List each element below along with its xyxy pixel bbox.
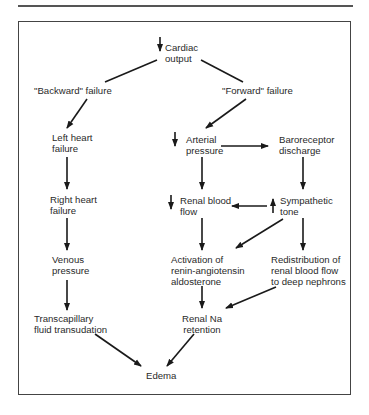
node-backward-failure: "Backward" failure (34, 85, 112, 96)
node-right-heart-failure: Right heart failure (50, 194, 97, 216)
node-activation-raa: Activation of renin-angiotensin aldoster… (171, 254, 245, 287)
node-renal-na-retention: Renal Na retention (182, 313, 222, 335)
node-forward-failure: "Forward" failure (222, 85, 293, 96)
node-venous-pressure: Venous pressure (52, 254, 89, 276)
node-sympathetic-tone: Sympathetic tone (280, 195, 333, 217)
node-left-heart-failure: Left heart failure (52, 132, 93, 154)
node-baroreceptor: Baroreceptor discharge (279, 134, 334, 156)
node-edema: Edema (146, 370, 176, 381)
node-cardiac-output: Cardiac output (165, 42, 198, 64)
node-arterial-pressure: Arterial pressure (186, 134, 223, 156)
node-renal-blood-flow: Renal blood flow (180, 195, 231, 217)
node-redistribution: Redistribution of renal blood flow to de… (271, 254, 346, 287)
node-transcapillary: Transcapillary fluid transudation (34, 313, 107, 335)
